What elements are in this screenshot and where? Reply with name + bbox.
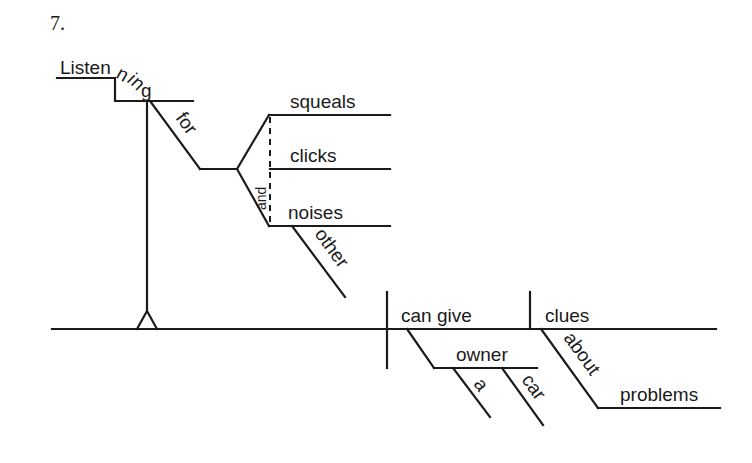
preposition-about: about problems (541, 328, 720, 408)
word-and: and (253, 187, 269, 210)
gerund-word-head: Listen (60, 57, 111, 78)
main-baseline: can give clues (52, 292, 716, 368)
word-about: about (560, 328, 605, 379)
word-car: car (518, 370, 551, 404)
word-problems: problems (620, 384, 698, 405)
word-can-give: can give (401, 305, 472, 326)
sentence-diagram: 7. Listen n i n g for squeals clicks noi… (0, 0, 752, 463)
word-squeals: squeals (290, 91, 356, 112)
word-noises: noises (288, 202, 343, 223)
word-clues: clues (545, 305, 589, 326)
word-clicks: clicks (290, 145, 336, 166)
word-other: other (311, 224, 354, 272)
gerund-platform: Listen n i n g (57, 57, 193, 101)
gerund-pedestal (137, 101, 157, 329)
word-for: for (172, 108, 202, 139)
word-a: a (470, 374, 493, 395)
problem-number: 7. (50, 12, 65, 34)
compound-object: squeals clicks noises and other (237, 91, 390, 297)
preposition-for: for (150, 101, 237, 169)
gerund-letter-g: g (141, 80, 152, 101)
word-owner: owner (456, 344, 508, 365)
indirect-object: owner a car (407, 329, 551, 425)
